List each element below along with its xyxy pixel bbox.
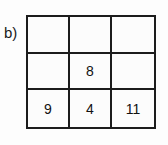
grid-cell-r2c3[interactable] <box>112 54 154 91</box>
cell-value: 9 <box>44 102 52 116</box>
grid-cell-r2c1[interactable] <box>28 54 70 91</box>
figure-panel: b) 8 9 4 11 <box>0 0 168 145</box>
grid-cell-r3c3[interactable]: 11 <box>112 90 154 127</box>
grid-cell-r1c1[interactable] <box>28 17 70 54</box>
part-label: b) <box>4 24 17 42</box>
grid-cell-r2c2[interactable]: 8 <box>70 54 112 91</box>
grid-cell-r3c2[interactable]: 4 <box>70 90 112 127</box>
number-grid: 8 9 4 11 <box>26 15 156 129</box>
grid-cell-r3c1[interactable]: 9 <box>28 90 70 127</box>
cell-value: 11 <box>126 102 141 116</box>
cell-value: 4 <box>86 102 94 116</box>
grid-cell-r1c3[interactable] <box>112 17 154 54</box>
grid-cell-r1c2[interactable] <box>70 17 112 54</box>
cell-value: 8 <box>86 64 94 78</box>
